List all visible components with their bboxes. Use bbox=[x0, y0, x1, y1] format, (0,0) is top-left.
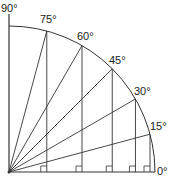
ray-45-degrees bbox=[9, 69, 112, 172]
origin-point bbox=[8, 171, 11, 174]
label-90-degrees: 90° bbox=[1, 3, 18, 14]
label-30-degrees: 30° bbox=[134, 86, 151, 97]
ray-75-degrees bbox=[9, 31, 47, 172]
label-45-degrees: 45° bbox=[109, 55, 126, 66]
right-angle-mark-30 bbox=[129, 166, 135, 172]
ray-30-degrees bbox=[9, 99, 135, 172]
label-0-degrees: 0° bbox=[157, 166, 168, 177]
label-15-degrees: 15° bbox=[150, 121, 167, 132]
label-60-degrees: 60° bbox=[77, 31, 94, 42]
right-angle-mark-60 bbox=[76, 166, 82, 172]
label-75-degrees: 75° bbox=[40, 14, 57, 25]
angle-diagram: 90° 75° 60° 45° 30° 15° 0° bbox=[0, 0, 172, 188]
right-angle-mark-75 bbox=[41, 166, 47, 172]
right-angle-mark-45 bbox=[106, 166, 112, 172]
ray-60-degrees bbox=[9, 46, 82, 172]
right-angle-mark-15 bbox=[144, 166, 150, 172]
